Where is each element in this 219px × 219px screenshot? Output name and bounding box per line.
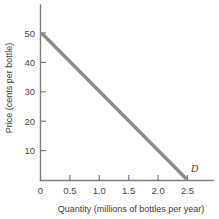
y-tick-label-30: 30 xyxy=(24,86,35,97)
x-tick-label-0: 0 xyxy=(38,185,43,196)
x-tick-label-2-5: 2.5 xyxy=(181,185,194,196)
x-tick-label-1-5: 1.5 xyxy=(122,185,135,196)
x-tick-label-0-5: 0.5 xyxy=(63,185,76,196)
x-tick-label-1-0: 1.0 xyxy=(93,185,106,196)
demand-curve-chart: 50 40 30 20 10 0 0.5 1.0 1.5 2.0 2.5 D Q… xyxy=(0,0,219,219)
y-tick-label-10: 10 xyxy=(24,145,35,156)
chart-canvas: 50 40 30 20 10 0 0.5 1.0 1.5 2.0 2.5 D Q… xyxy=(0,0,219,219)
y-tick-label-40: 40 xyxy=(24,57,35,68)
demand-curve-label: D xyxy=(190,163,199,174)
x-axis-title: Quantity (millions of bottles per year) xyxy=(58,204,205,214)
x-tick-label-2-0: 2.0 xyxy=(151,185,164,196)
y-tick-label-50: 50 xyxy=(24,28,35,39)
y-tick-label-20: 20 xyxy=(24,116,35,127)
y-axis-title: Price (cents per bottle) xyxy=(4,43,14,134)
